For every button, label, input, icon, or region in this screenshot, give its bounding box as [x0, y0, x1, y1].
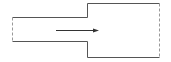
pipe-expansion-diagram	[0, 0, 171, 62]
